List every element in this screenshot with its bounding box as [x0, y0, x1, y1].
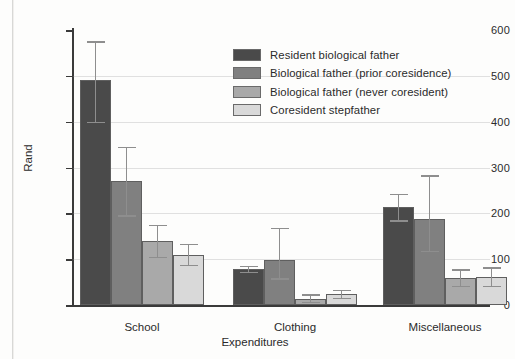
error-bar-line-miscellaneous-4 [491, 267, 492, 285]
error-bar-cap-upper-miscellaneous-2 [421, 175, 439, 176]
error-bar-cap-lower-miscellaneous-4 [483, 286, 501, 287]
legend-swatch-2 [233, 67, 261, 79]
error-bar-line-miscellaneous-3 [460, 269, 461, 286]
error-bar-cap-upper-miscellaneous-4 [483, 267, 501, 268]
legend-label-4: Coresident stepfather [270, 104, 380, 116]
gridline-300 [73, 168, 490, 169]
legend-swatch-3 [233, 86, 261, 98]
y-tick-400 [66, 122, 73, 124]
legend-swatch-4 [233, 104, 261, 116]
error-bar-cap-lower-clothing-1 [240, 272, 258, 273]
y-tick-200 [66, 213, 73, 215]
error-bar-cap-lower-school-2 [118, 215, 136, 216]
error-bar-cap-lower-clothing-3 [302, 302, 320, 303]
y-tick-500 [66, 76, 73, 78]
error-bar-cap-upper-school-1 [87, 41, 105, 42]
error-bar-line-school-3 [157, 225, 158, 257]
legend-label-2: Biological father (prior coresidence) [270, 67, 451, 79]
legend-label-1: Resident biological father [270, 49, 399, 61]
error-bar-cap-lower-miscellaneous-1 [390, 220, 408, 221]
error-bar-cap-lower-clothing-4 [333, 298, 351, 299]
x-axis-line [72, 305, 490, 307]
error-bar-cap-lower-clothing-2 [271, 278, 289, 279]
legend-label-3: Biological father (never coresident) [270, 86, 448, 98]
legend-item-4: Coresident stepfather [233, 102, 451, 120]
legend-item-3: Biological father (never coresident) [233, 83, 451, 101]
error-bar-cap-upper-school-3 [149, 225, 167, 226]
y-axis-title: Rand [22, 128, 34, 188]
y-tick-0 [66, 305, 73, 307]
category-label-miscellaneous: Miscellaneous [353, 321, 515, 333]
error-bar-cap-upper-school-2 [118, 147, 136, 148]
error-bar-cap-upper-clothing-3 [302, 294, 320, 295]
bar-clothing-series-1 [233, 269, 264, 305]
legend-item-1: Resident biological father [233, 46, 451, 64]
y-tick-label-600: 600 [450, 24, 510, 36]
error-bar-cap-lower-school-4 [180, 265, 198, 266]
error-bar-line-clothing-2 [279, 228, 280, 278]
bar-miscellaneous-series-1 [383, 207, 414, 305]
error-bar-cap-lower-miscellaneous-3 [452, 286, 470, 287]
error-bar-line-miscellaneous-2 [429, 175, 430, 251]
error-bar-line-school-4 [188, 244, 189, 265]
error-bar-cap-lower-miscellaneous-2 [421, 251, 439, 252]
y-tick-600 [66, 30, 73, 32]
error-bar-cap-upper-miscellaneous-3 [452, 269, 470, 270]
error-bar-line-school-1 [95, 41, 96, 121]
error-bar-line-school-2 [126, 147, 127, 215]
y-tick-300 [66, 168, 73, 170]
error-bar-cap-upper-clothing-4 [333, 290, 351, 291]
error-bar-cap-upper-clothing-2 [271, 228, 289, 229]
error-bar-cap-lower-school-1 [87, 122, 105, 123]
error-bar-cap-upper-miscellaneous-1 [390, 194, 408, 195]
error-bar-cap-upper-school-4 [180, 244, 198, 245]
error-bar-line-miscellaneous-1 [398, 194, 399, 221]
error-bar-cap-upper-clothing-1 [240, 266, 258, 267]
gridline-400 [73, 122, 490, 123]
error-bar-cap-lower-school-3 [149, 257, 167, 258]
legend-swatch-1 [233, 49, 261, 61]
legend-item-2: Biological father (prior coresidence) [233, 65, 451, 83]
x-axis-title: Expenditures [0, 336, 510, 348]
y-tick-100 [66, 259, 73, 261]
chart-legend: Resident biological fatherBiological fat… [233, 46, 451, 120]
